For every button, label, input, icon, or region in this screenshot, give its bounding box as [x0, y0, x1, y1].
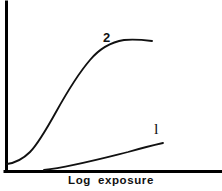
characteristic-curve-figure: 2 l Logexposure [0, 0, 222, 191]
curve-1-path [44, 143, 163, 170]
curve-2-label: 2 [103, 31, 110, 44]
curve-2-path [7, 40, 152, 164]
x-axis-label-word-2: exposure [98, 174, 154, 186]
plot-canvas [0, 0, 222, 191]
x-axis-label-word-1: Log [68, 174, 91, 186]
x-axis-label: Logexposure [0, 174, 222, 186]
curve-1-label: l [154, 123, 158, 137]
